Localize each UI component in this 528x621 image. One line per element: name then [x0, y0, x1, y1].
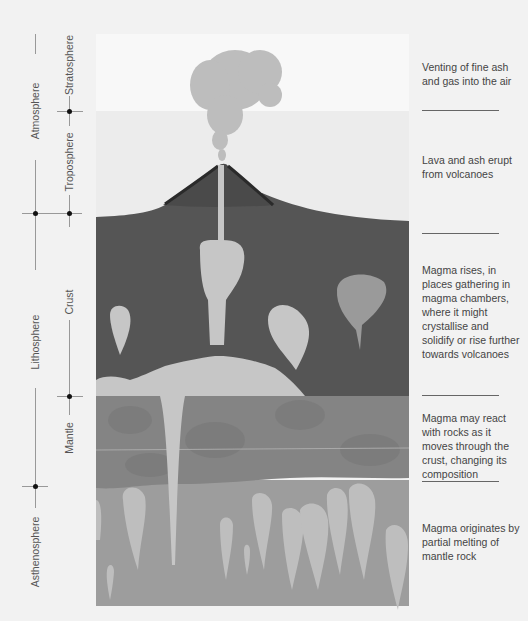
label-mantle: Mantle	[63, 398, 75, 478]
label-troposphere: Troposphere	[63, 122, 75, 202]
outer-axis-line	[35, 388, 36, 508]
tick-atmo-litho	[22, 213, 82, 214]
divider	[422, 233, 499, 234]
label-stratosphere: Stratosphere	[63, 25, 75, 105]
boundary-dot	[67, 211, 72, 216]
description-mantle: Magma may react with rocks as it moves t…	[422, 411, 522, 481]
description-asthenosphere: Magma originates by partial melting of m…	[422, 521, 522, 563]
divider	[422, 481, 499, 482]
description-stratosphere: Venting of fine ash and gas into the air	[422, 60, 522, 88]
boundary-dot	[33, 211, 38, 216]
description-troposphere: Lava and ash erupt from volcanoes	[422, 153, 522, 181]
description-crust: Magma rises, in places gathering in magm…	[422, 263, 522, 361]
divider	[422, 110, 499, 111]
divider	[422, 395, 499, 396]
outer-axis-line-top	[35, 34, 36, 54]
boundary-dot	[67, 109, 72, 114]
label-atmosphere: Atmosphere	[29, 71, 41, 151]
label-asthenosphere: Asthenosphere	[29, 502, 41, 602]
boundary-dot	[33, 484, 38, 489]
label-lithosphere: Lithosphere	[29, 302, 41, 382]
